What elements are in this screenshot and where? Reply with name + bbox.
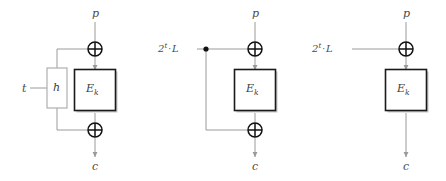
offset-operand: L — [326, 43, 333, 54]
diagram-xe-offset-input-only: p c 2t·L Ek — [296, 0, 446, 181]
label-plaintext: p — [403, 8, 410, 19]
cipher-box-subscript: k — [94, 88, 99, 97]
offset-operand: L — [172, 43, 179, 54]
wire-hash-to-top-xor — [57, 49, 88, 68]
xor-top — [399, 42, 413, 56]
label-cipher-box: Ek — [246, 83, 259, 97]
label-offset: 2t·L — [312, 43, 333, 54]
label-hash-box: h — [53, 82, 60, 93]
diagram-3-wires — [296, 0, 446, 181]
xor-top — [88, 42, 102, 56]
label-cipher-box: Ek — [397, 83, 410, 97]
label-cipher-box: Ek — [86, 83, 99, 97]
figure-canvas: p c t h Ek — [0, 0, 446, 181]
xor-top — [248, 42, 262, 56]
label-ciphertext: c — [403, 161, 409, 172]
xor-bottom — [88, 123, 102, 137]
label-offset: 2t·L — [158, 43, 179, 54]
diagram-2-wires — [150, 0, 296, 181]
cipher-box-letter: E — [246, 82, 254, 95]
xor-bottom — [248, 123, 262, 137]
diagram-xex-offset-both-sides: p c 2t·L Ek — [150, 0, 296, 181]
label-tweak: t — [22, 83, 26, 94]
junction-dot — [203, 46, 208, 51]
diagram-hash-then-encrypt: p c t h Ek — [0, 0, 150, 181]
cipher-box-subscript: k — [254, 88, 259, 97]
cipher-box-subscript: k — [405, 88, 410, 97]
label-plaintext: p — [92, 8, 99, 19]
cipher-box-letter: E — [86, 82, 94, 95]
label-plaintext: p — [252, 8, 259, 19]
label-ciphertext: c — [252, 161, 258, 172]
label-ciphertext: c — [92, 161, 98, 172]
cipher-box-letter: E — [397, 82, 405, 95]
